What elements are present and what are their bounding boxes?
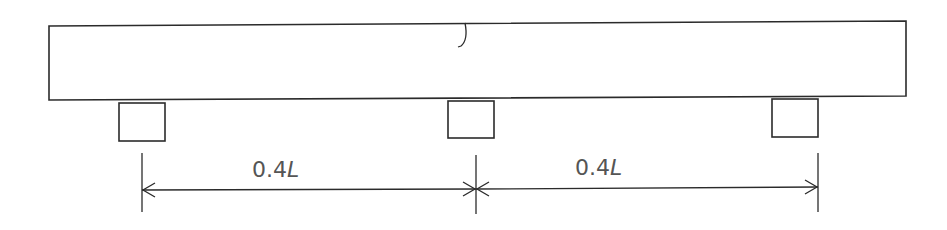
beam [49, 21, 906, 100]
support-left [119, 103, 165, 141]
support-middle [448, 101, 494, 138]
beam-diagram: 0.4L 0.4L [0, 0, 947, 230]
dimension-label-1: 0.4L [252, 157, 299, 182]
beam-mark [458, 23, 466, 47]
dimension-line-2 [476, 187, 818, 189]
dimension-label-2: 0.4L [575, 155, 622, 180]
support-right [772, 99, 818, 137]
dimension-line-1 [142, 189, 476, 190]
